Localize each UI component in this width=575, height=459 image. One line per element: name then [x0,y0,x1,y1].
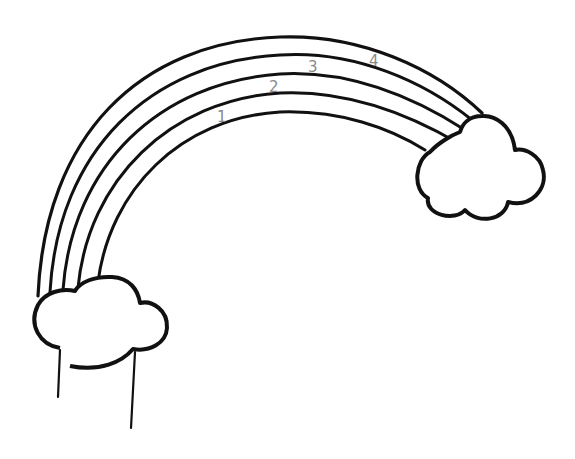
rainbow-arc-line-3 [63,74,465,290]
rain-streak-right [131,352,135,428]
rainbow-arc-line-1 [98,112,425,282]
left-cloud [34,277,167,368]
band-label-2: 2 [269,78,279,96]
band-label-3: 3 [308,58,318,76]
band-label-1: 1 [217,108,227,126]
rainbow-arc-line-4 [50,54,472,292]
rain-streak-left [58,350,60,397]
band-label-4: 4 [369,52,379,70]
rainbow-drawing: 1 2 3 4 [0,0,575,459]
